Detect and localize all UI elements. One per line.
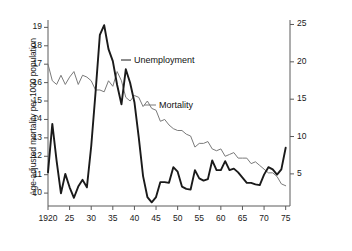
y-tick-label-left: 12 [18,150,42,160]
y-tick-label-left: 19 [18,21,42,31]
y-tick-label-right: 20 [297,56,317,66]
chart-figure: Age-adjusted mortality per 1000 populati… [0,0,352,251]
y-tick-label-right: 10 [297,131,317,141]
y-tick-label-right: 5 [297,168,317,178]
y-tick-label-left: 14 [18,113,42,123]
series-label-unemployment: Unemployment [134,55,195,65]
y-tick-label-right: 15 [297,93,317,103]
series-label-mortality: Mortality [159,100,193,110]
series-line-unemployment [48,25,286,202]
series-group [48,25,286,202]
series-line-mortality [48,64,286,186]
y-tick-label-right: 25 [297,18,317,28]
y-tick-label-left: 10 [18,187,42,197]
y-tick-label-left: 13 [18,132,42,142]
y-tick-label-left: 17 [18,58,42,68]
y-tick-label-left: 11 [18,169,42,179]
y-tick-label-left: 18 [18,40,42,50]
x-tick-label: 75 [268,213,304,223]
y-tick-label-left: 15 [18,95,42,105]
y-tick-label-left: 16 [18,77,42,87]
